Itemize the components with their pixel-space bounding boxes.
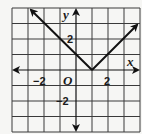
y-axis-label: y <box>61 7 69 22</box>
function-graph <box>31 10 137 70</box>
x-tick-2: 2 <box>104 75 110 87</box>
graph-left-branch <box>31 10 92 70</box>
x-tick-neg2: −2 <box>33 75 46 87</box>
x-axis-label: x <box>126 54 134 69</box>
coordinate-graph: y x O −2 2 2 −2 <box>0 0 142 134</box>
y-tick-neg2: −2 <box>56 95 69 107</box>
y-tick-2: 2 <box>67 33 73 45</box>
origin-label: O <box>63 73 73 88</box>
axes <box>14 10 138 130</box>
